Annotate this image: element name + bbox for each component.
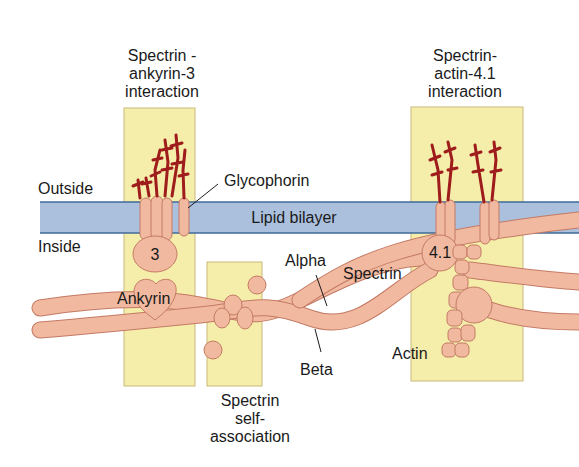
beta-leader — [315, 329, 321, 352]
label-glycophorin: Glycophorin — [224, 172, 309, 190]
label-spectrin: Spectrin — [343, 265, 402, 283]
label-alpha: Alpha — [285, 252, 326, 270]
label-beta: Beta — [300, 361, 333, 379]
label-spectrin-actin-interaction: Spectrin- actin-4.1 interaction — [410, 47, 520, 101]
label-lipid-bilayer: Lipid bilayer — [244, 209, 344, 227]
label-inside: Inside — [38, 238, 81, 256]
label-ankyrin: Ankyrin — [117, 290, 170, 308]
label-actin: Actin — [392, 345, 428, 363]
label-band41: 4.1 — [424, 244, 456, 262]
label-outside: Outside — [38, 180, 93, 198]
label-band3: 3 — [145, 246, 165, 264]
label-spectrin-self-association: Spectrin self- association — [195, 392, 305, 446]
label-spectrin-ankyrin-interaction: Spectrin - ankyrin-3 interaction — [112, 47, 212, 101]
